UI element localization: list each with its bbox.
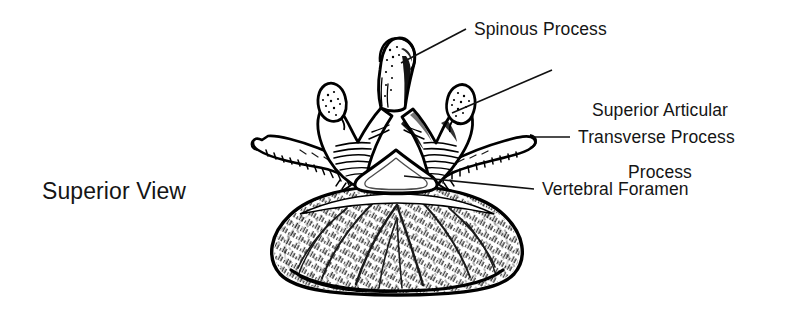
label-vertebral-foramen: Vertebral Foramen	[542, 179, 689, 200]
vertebral-body	[265, 180, 535, 305]
label-superior-articular-process-line1: Superior Articular	[560, 100, 760, 121]
label-transverse-process: Transverse Process	[578, 127, 735, 148]
label-superior-view: Superior View	[42, 178, 186, 205]
anatomy-figure: Spinous Process Superior Articular Proce…	[0, 0, 795, 325]
label-spinous-process: Spinous Process	[474, 19, 607, 40]
spinous-process	[379, 38, 415, 111]
